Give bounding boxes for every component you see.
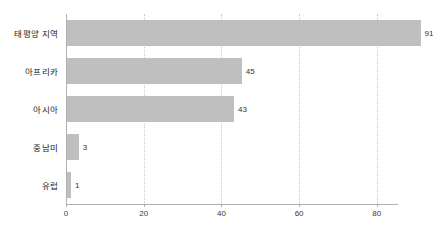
bar-africa bbox=[67, 58, 242, 84]
bar-europe bbox=[67, 172, 71, 198]
x-tick-60 bbox=[299, 204, 300, 207]
bar-row-europe: 유럽 1 bbox=[0, 166, 404, 204]
bar-wrap-pacific: 91 bbox=[67, 14, 433, 52]
category-label-africa: 아프리카 bbox=[0, 52, 58, 90]
category-label-latin-america: 중남미 bbox=[0, 128, 58, 166]
bar-value-pacific: 91 bbox=[425, 29, 433, 38]
x-tick-label-0: 0 bbox=[64, 209, 68, 218]
bar-value-europe: 1 bbox=[75, 181, 79, 190]
x-tick-40 bbox=[221, 204, 222, 207]
bar-wrap-latin-america: 3 bbox=[67, 128, 87, 166]
bar-row-pacific: 태평양 지역 91 bbox=[0, 14, 404, 52]
bar-row-africa: 아프리카 45 bbox=[0, 52, 404, 90]
x-tick-label-60: 60 bbox=[295, 209, 304, 218]
bar-rows: 태평양 지역 91 아프리카 45 아시아 43 중남미 3 bbox=[0, 14, 404, 204]
bar-row-asia: 아시아 43 bbox=[0, 90, 404, 128]
bar-latin-america bbox=[67, 134, 79, 160]
bar-value-asia: 43 bbox=[238, 105, 247, 114]
bar-wrap-asia: 43 bbox=[67, 90, 247, 128]
x-tick-label-80: 80 bbox=[372, 209, 381, 218]
bar-row-latin-america: 중남미 3 bbox=[0, 128, 404, 166]
category-label-pacific: 태평양 지역 bbox=[0, 14, 58, 52]
category-label-asia: 아시아 bbox=[0, 90, 58, 128]
bar-value-latin-america: 3 bbox=[83, 143, 87, 152]
category-label-europe: 유럽 bbox=[0, 166, 58, 204]
x-tick-label-40: 40 bbox=[217, 209, 226, 218]
x-tick-20 bbox=[144, 204, 145, 207]
x-tick-label-20: 20 bbox=[139, 209, 148, 218]
x-tick-80 bbox=[377, 204, 378, 207]
x-axis-line bbox=[66, 204, 398, 205]
x-tick-0 bbox=[66, 204, 67, 207]
bar-wrap-europe: 1 bbox=[67, 166, 79, 204]
bar-value-africa: 45 bbox=[246, 67, 255, 76]
bar-wrap-africa: 45 bbox=[67, 52, 255, 90]
bar-pacific bbox=[67, 20, 421, 46]
bar-asia bbox=[67, 96, 234, 122]
